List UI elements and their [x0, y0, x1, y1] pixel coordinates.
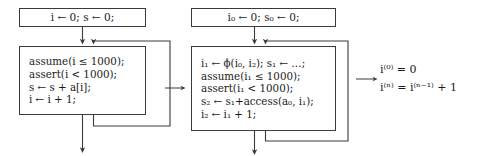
loop-block-ssa: i₁ ← ϕ(i₀, i₂); s₁ ← …; assume(i₁ ≤ 1000…: [191, 46, 336, 131]
entry-block-original-line: i ← 0; s ← 0;: [51, 12, 114, 23]
recurrence-equation-base: i⁽⁰⁾ = 0: [380, 60, 484, 79]
recurrence-equations: i⁽⁰⁾ = 0 i⁽ⁿ⁾ = i⁽ⁿ⁻¹⁾ + 1: [380, 60, 484, 97]
loop-block-original-line-3: i ← i + 1;: [29, 93, 145, 106]
loop-block-ssa-line-2: assert(i₁ < 1000);: [201, 82, 335, 95]
loop-block-ssa-line-3: s₂ ← s₁+access(a₀, i₁);: [201, 95, 335, 108]
loop-block-original-line-1: assert(i < 1000);: [29, 68, 145, 81]
loop-block-ssa-line-4: i₂ ← i₁ + 1;: [201, 108, 335, 121]
loop-block-original-line-0: assume(i ≤ 1000);: [29, 55, 145, 68]
recurrence-equation-step: i⁽ⁿ⁾ = i⁽ⁿ⁻¹⁾ + 1: [380, 79, 484, 98]
loop-block-ssa-line-1: assume(i₁ ≤ 1000);: [201, 69, 335, 82]
entry-block-ssa: i₀ ← 0; s₀ ← 0;: [191, 8, 336, 27]
loop-block-original: assume(i ≤ 1000); assert(i < 1000); s ← …: [19, 46, 146, 115]
loop-block-ssa-line-0: i₁ ← ϕ(i₀, i₂); s₁ ← …;: [201, 57, 335, 70]
entry-block-ssa-line: i₀ ← 0; s₀ ← 0;: [228, 12, 300, 23]
cfg-transformation-figure: i ← 0; s ← 0; assume(i ≤ 1000); assert(i…: [0, 0, 486, 156]
entry-block-original: i ← 0; s ← 0;: [19, 8, 146, 27]
loop-block-original-line-2: s ← s + a[i];: [29, 81, 145, 94]
